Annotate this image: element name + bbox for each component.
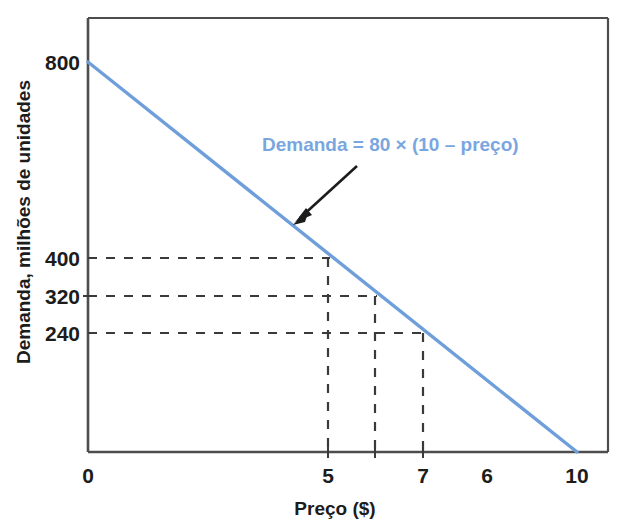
annotation-arrow-icon <box>293 166 357 225</box>
guide-lines-vertical <box>328 258 423 452</box>
x-tick-label-5: 5 <box>322 464 334 487</box>
x-tick-label-0: 0 <box>82 464 94 487</box>
demand-equation-annotation: Demanda = 80 × (10 – preço) <box>262 134 519 155</box>
x-tick-label-10: 10 <box>565 464 588 487</box>
plot-frame <box>88 18 608 452</box>
x-tick-label-7: 7 <box>417 464 429 487</box>
x-axis-title: Preço ($) <box>294 498 375 519</box>
y-tick-label-240: 240 <box>45 322 80 345</box>
y-tick-label-800: 800 <box>45 51 80 74</box>
x-tick-label-8: 6 <box>481 464 493 487</box>
demand-curve-chart: Demanda = 80 × (10 – preço) 800 400 320 … <box>0 0 627 528</box>
chart-canvas: Demanda = 80 × (10 – preço) 800 400 320 … <box>0 0 627 528</box>
y-tick-label-320: 320 <box>45 285 80 308</box>
y-axis-title: Demanda, milhões de unidades <box>13 80 34 364</box>
y-tick-label-400: 400 <box>45 247 80 270</box>
